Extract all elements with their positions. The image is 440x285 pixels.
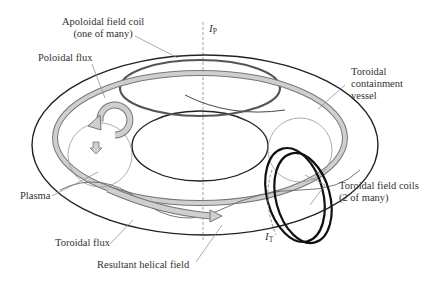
label-plasma: Plasma xyxy=(20,190,50,202)
label-apoloidal-field-coil: Apoloidal field coil (one of many) xyxy=(62,16,144,40)
label-line: Toroidal xyxy=(351,66,403,78)
current-subscript: P xyxy=(213,27,217,36)
torus-inner-hole xyxy=(132,111,268,181)
label-line: containment xyxy=(351,78,403,90)
label-line: (2 of many) xyxy=(339,192,419,204)
label-toroidal-field-coils: Toroidal field coils (2 of many) xyxy=(339,180,419,204)
label-line: Toroidal field coils xyxy=(339,180,419,192)
label-line: Apoloidal field coil xyxy=(62,16,144,28)
label-toroidal-containment-vessel: Toroidal containment vessel xyxy=(351,66,403,102)
containment-vessel-outer xyxy=(32,55,378,235)
label-poloidal-flux: Poloidal flux xyxy=(38,52,93,64)
poloidal-flux-arrow xyxy=(100,105,130,135)
label-current-ip: IP xyxy=(209,22,217,36)
label-line: (one of many) xyxy=(62,28,144,40)
apoloidal-field-coil xyxy=(120,60,280,116)
label-toroidal-flux: Toroidal flux xyxy=(55,237,110,249)
current-subscript: T xyxy=(269,235,274,244)
label-line: vessel xyxy=(351,90,403,102)
tokamak-diagram: Apoloidal field coil (one of many) Poloi… xyxy=(0,0,440,285)
label-current-it: IT xyxy=(265,230,273,244)
label-resultant-helical-field: Resultant helical field xyxy=(97,259,189,271)
